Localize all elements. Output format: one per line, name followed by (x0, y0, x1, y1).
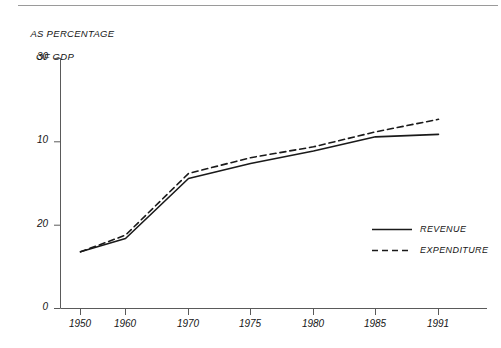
x-tick-label-1970: 1970 (165, 318, 211, 329)
series-line-expenditure (81, 119, 439, 252)
y-axis-ticks (54, 59, 61, 309)
x-tick-label-1991: 1991 (415, 318, 461, 329)
x-axis-ticks (81, 309, 439, 316)
x-tick-label-1975: 1975 (227, 318, 273, 329)
x-tick-label-1950: 1950 (57, 318, 103, 329)
chart-figure: AS PERCENTAGE OF GDP (0, 0, 501, 348)
y-tick-label-20: 20 (18, 218, 48, 229)
x-tick-label-1960: 1960 (102, 318, 148, 329)
x-tick-label-1985: 1985 (352, 318, 398, 329)
x-tick-label-1980: 1980 (290, 318, 336, 329)
legend-label-expenditure: EXPENDITURE (420, 245, 488, 255)
plot-area (0, 0, 501, 348)
y-tick-label-30: 30 (18, 51, 48, 62)
legend-label-revenue: REVENUE (420, 224, 466, 234)
series-line-revenue (81, 134, 439, 252)
y-tick-label-10-placeholder: 10 (18, 134, 48, 145)
y-tick-label-0: 0 (18, 301, 48, 312)
